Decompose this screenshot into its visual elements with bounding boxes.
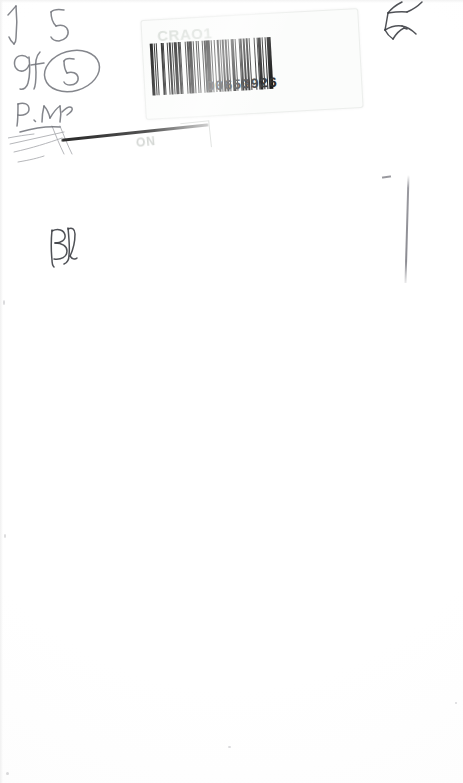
secondary-label: ON: [61, 120, 211, 163]
scan-edge-left: [0, 0, 3, 783]
arrow-annotation-icon: [2, 2, 38, 46]
tick-mark-artifact: [382, 175, 391, 178]
scan-edge-top: [0, 0, 463, 3]
scanned-page: 5 Gf 5 P. M.: [0, 0, 463, 783]
scan-speck: [455, 702, 457, 704]
digit-annotation-top: [42, 4, 76, 46]
scan-speck: [6, 772, 9, 775]
scan-speck: [4, 534, 6, 538]
secondary-label-text: ON: [135, 134, 156, 150]
corner-scribble-annotation: [374, 0, 444, 56]
signature-initials-annotation: [44, 222, 88, 270]
scan-speck: [3, 300, 5, 305]
paper-texture: [0, 0, 463, 783]
initials-annotation: [8, 48, 56, 94]
scan-speck: [228, 746, 231, 748]
vertical-line-artifact: [404, 175, 409, 283]
barcode-label: CRAO1 D0653926: [140, 8, 363, 120]
secondary-label-frame: [180, 120, 212, 150]
time-annotation: [10, 96, 90, 136]
circled-digit-annotation: [38, 42, 106, 102]
